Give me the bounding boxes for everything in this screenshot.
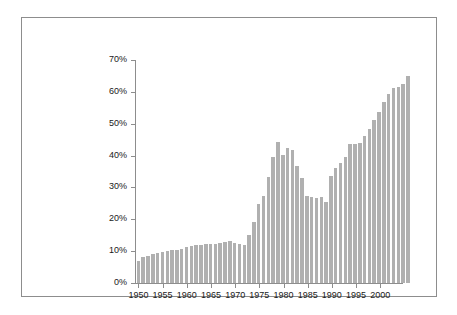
figure-border: Percent of U.S. Demand 0%10%20%30%40%50%… xyxy=(21,17,437,297)
y-tick-label: 70% xyxy=(97,55,127,64)
bar xyxy=(353,144,356,283)
x-tick-mark xyxy=(235,284,236,288)
bar xyxy=(267,177,270,283)
bar xyxy=(358,143,361,283)
bar xyxy=(286,148,289,283)
bar xyxy=(262,196,265,283)
y-tick-mark xyxy=(131,92,135,93)
bar xyxy=(190,246,193,283)
bar xyxy=(238,244,241,283)
bar xyxy=(243,245,246,283)
y-tick-label: 50% xyxy=(97,119,127,128)
bar xyxy=(170,250,173,283)
x-tick-mark xyxy=(187,284,188,288)
bar xyxy=(368,129,371,283)
bar xyxy=(281,155,284,283)
bar xyxy=(276,142,279,283)
bar xyxy=(300,178,303,283)
y-axis-line xyxy=(135,60,136,284)
bar xyxy=(339,163,342,283)
bar xyxy=(214,244,217,284)
x-tick-mark xyxy=(308,284,309,288)
bar xyxy=(146,256,149,283)
bar xyxy=(392,88,395,283)
y-tick-label: 60% xyxy=(97,87,127,96)
x-tick-mark xyxy=(211,284,212,288)
bar xyxy=(271,157,274,283)
bar xyxy=(320,197,323,283)
bar xyxy=(175,250,178,283)
x-tick-mark xyxy=(138,284,139,288)
y-tick-label: 40% xyxy=(97,151,127,160)
bar xyxy=(372,120,375,283)
plot-area xyxy=(136,60,402,283)
bar xyxy=(252,222,255,283)
bar xyxy=(291,150,294,283)
x-axis-line xyxy=(135,283,403,284)
bar xyxy=(401,84,404,283)
bar xyxy=(334,168,337,283)
bar xyxy=(180,249,183,283)
x-tick-mark xyxy=(332,284,333,288)
bar xyxy=(204,244,207,283)
bar xyxy=(397,87,400,283)
bar xyxy=(218,243,221,283)
bar xyxy=(156,253,159,283)
bar xyxy=(257,204,260,283)
bar xyxy=(137,261,140,283)
x-tick-mark xyxy=(163,284,164,288)
bar xyxy=(310,197,313,283)
bar-series xyxy=(136,60,402,283)
x-tick-label: 2000 xyxy=(366,290,394,300)
x-tick-mark xyxy=(356,284,357,288)
y-tick-label: 10% xyxy=(97,246,127,255)
bar xyxy=(348,144,351,283)
bar xyxy=(161,252,164,283)
x-tick-mark xyxy=(380,284,381,288)
bar xyxy=(199,245,202,283)
y-tick-label: 0% xyxy=(97,278,127,287)
bar xyxy=(382,102,385,283)
x-tick-mark xyxy=(284,284,285,288)
bar xyxy=(305,196,308,283)
bar xyxy=(344,157,347,283)
y-tick-mark xyxy=(131,124,135,125)
y-axis-title: Percent of U.S. Demand xyxy=(0,66,1,226)
y-tick-mark xyxy=(131,251,135,252)
bar xyxy=(228,241,231,283)
y-tick-mark xyxy=(131,156,135,157)
bar xyxy=(233,243,236,283)
bar xyxy=(166,251,169,283)
bar xyxy=(194,245,197,283)
bar xyxy=(315,198,318,283)
bar xyxy=(377,112,380,283)
bar xyxy=(329,176,332,283)
chart-figure: Percent of U.S. Demand 0%10%20%30%40%50%… xyxy=(0,0,457,315)
bar xyxy=(324,202,327,283)
y-tick-mark xyxy=(131,60,135,61)
y-tick-mark xyxy=(131,283,135,284)
bar xyxy=(185,247,188,283)
bar xyxy=(387,94,390,283)
bar xyxy=(247,235,250,283)
bar xyxy=(141,257,144,283)
y-tick-mark xyxy=(131,187,135,188)
bar xyxy=(223,242,226,283)
y-tick-label: 30% xyxy=(97,182,127,191)
y-tick-label: 20% xyxy=(97,214,127,223)
bar xyxy=(209,244,212,283)
bar xyxy=(406,76,409,283)
bar xyxy=(151,254,154,283)
bar xyxy=(363,136,366,283)
y-tick-mark xyxy=(131,219,135,220)
x-tick-mark xyxy=(259,284,260,288)
bar xyxy=(295,166,298,283)
